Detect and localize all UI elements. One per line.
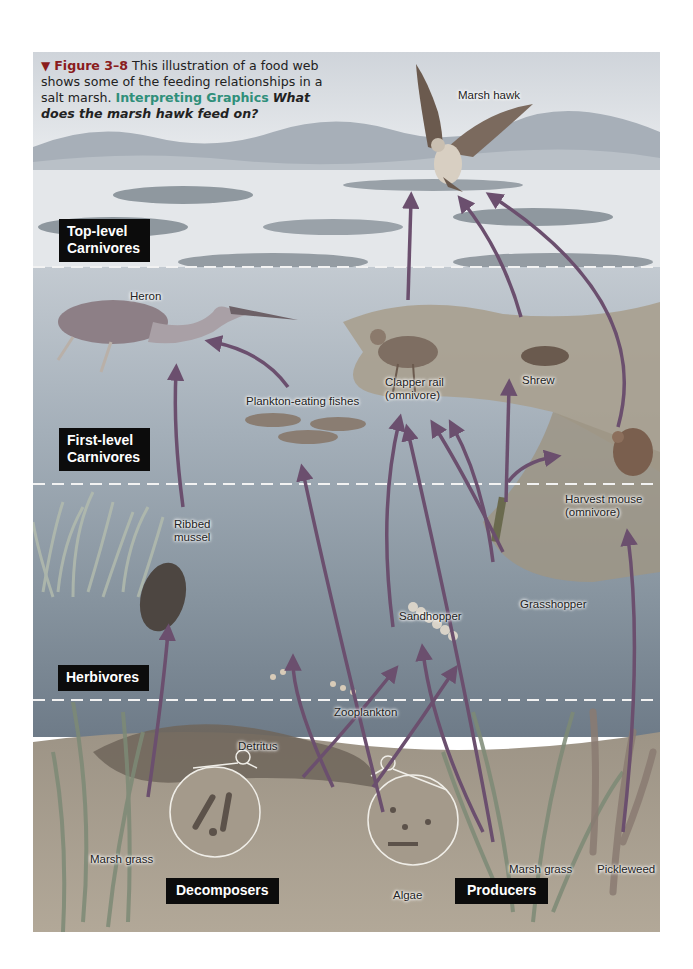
label-line: Ribbed (174, 518, 210, 531)
caption-marker-icon: ▼ (41, 59, 50, 73)
level-label-line: Decomposers (176, 882, 269, 899)
label-algae: Algae (393, 889, 422, 902)
shrew-illustration (521, 346, 569, 366)
label-ribbed-mussel: Ribbed mussel (174, 518, 210, 544)
label-marsh-hawk: Marsh hawk (458, 89, 520, 102)
level-label-line: Top-level (67, 223, 140, 240)
level-label-line: Carnivores (67, 240, 140, 257)
label-detritus: Detritus (238, 740, 278, 753)
label-pickleweed: Pickleweed (597, 863, 655, 876)
level-label-first-carnivores: First-level Carnivores (59, 428, 150, 471)
label-line: (omnivore) (565, 506, 642, 519)
label-marsh-grass-right: Marsh grass (509, 863, 572, 876)
label-line: (omnivore) (385, 389, 444, 402)
label-plankton-eating-fishes: Plankton-eating fishes (246, 395, 359, 408)
label-shrew: Shrew (522, 374, 555, 387)
level-label-line: Producers (467, 882, 536, 899)
label-heron: Heron (130, 290, 161, 303)
level-label-line: First-level (67, 432, 140, 449)
level-label-line: Herbivores (66, 669, 139, 686)
label-grasshopper: Grasshopper (520, 598, 586, 611)
level-label-producers: Producers (455, 878, 548, 904)
food-web-figure: ▼Figure 3–8 This illustration of a food … (33, 52, 660, 932)
salt-marsh-illustration (33, 52, 660, 932)
label-sandhopper: Sandhopper (399, 610, 462, 623)
label-clapper-rail: Clapper rail (omnivore) (385, 376, 444, 402)
level-label-line: Carnivores (67, 449, 140, 466)
label-zooplankton: Zooplankton (334, 706, 397, 719)
label-harvest-mouse: Harvest mouse (omnivore) (565, 493, 642, 519)
level-label-herbivores: Herbivores (58, 665, 149, 691)
label-line: mussel (174, 531, 210, 544)
skill-label: Interpreting Graphics (115, 90, 268, 105)
label-line: Harvest mouse (565, 493, 642, 506)
label-line: Clapper rail (385, 376, 444, 389)
label-marsh-grass-left: Marsh grass (90, 853, 153, 866)
level-label-top-carnivores: Top-level Carnivores (59, 219, 150, 262)
figure-number: Figure 3–8 (54, 58, 128, 73)
level-label-decomposers: Decomposers (166, 878, 279, 904)
figure-caption: ▼Figure 3–8 This illustration of a food … (41, 58, 326, 122)
